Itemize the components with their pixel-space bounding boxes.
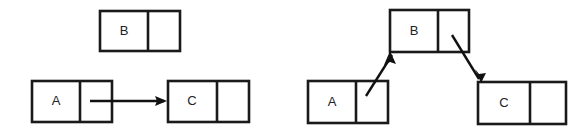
panel-after: B A C (308, 10, 566, 124)
node-b-before[interactable]: B (100, 11, 180, 51)
node-c-before-box (168, 81, 249, 122)
node-b-after-box (390, 10, 469, 52)
linked-list-diagram: B A C (0, 0, 587, 135)
panel-before: B A C (32, 11, 249, 122)
node-c-before[interactable]: C (168, 81, 249, 122)
node-b-before-box (100, 11, 180, 51)
node-b-before-label: B (120, 23, 129, 38)
node-c-before-label: C (187, 93, 196, 108)
node-a-after-box (308, 81, 388, 123)
node-a-after[interactable]: A (308, 81, 388, 123)
node-a-after-label: A (328, 94, 337, 109)
diagram-canvas: B A C (0, 0, 587, 135)
node-b-after[interactable]: B (390, 10, 469, 52)
node-c-after-box (478, 82, 566, 124)
node-c-after[interactable]: C (478, 82, 566, 124)
node-b-after-label: B (410, 23, 419, 38)
node-c-after-label: C (499, 95, 508, 110)
node-a-before-label: A (52, 93, 61, 108)
